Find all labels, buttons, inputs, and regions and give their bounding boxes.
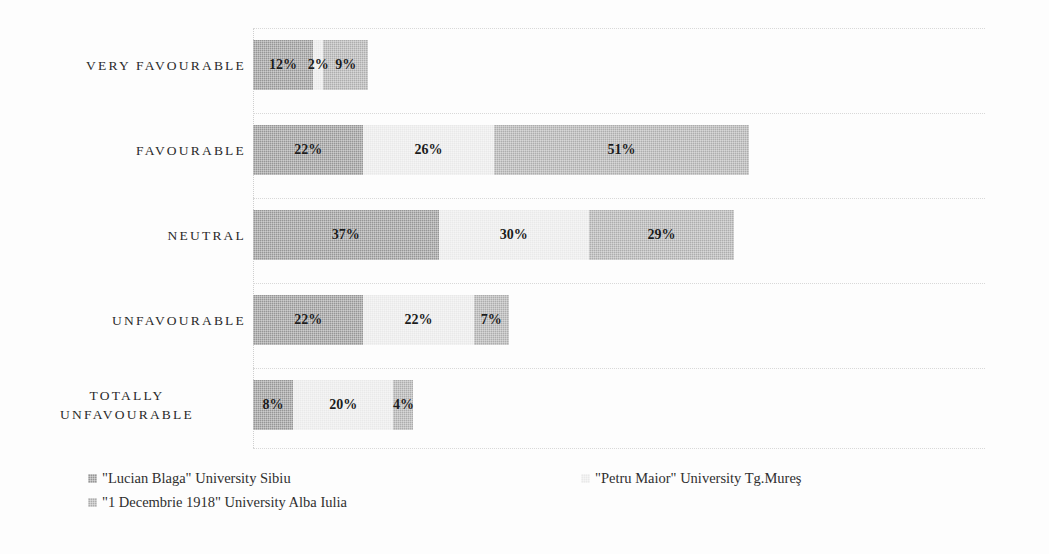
gridline [253, 28, 985, 29]
bar-segment[interactable]: 51% [494, 125, 750, 175]
bar-row: 8%20%4% [253, 380, 413, 430]
category-label: NEUTRAL [8, 226, 246, 245]
bar-segment[interactable]: 20% [293, 380, 393, 430]
category-label-line: UNFAVOURABLE [8, 311, 246, 330]
category-label: UNFAVOURABLE [8, 311, 246, 330]
legend-swatch-icon [581, 474, 590, 483]
legend-item-petru-maior[interactable]: "Petru Maior" University Tg.Mureş [581, 470, 802, 487]
bar-value-label: 4% [393, 397, 414, 413]
gridline [253, 198, 985, 199]
bar-segment[interactable]: 26% [363, 125, 493, 175]
bar-segment[interactable]: 37% [253, 210, 439, 260]
bar-segment[interactable]: 9% [323, 40, 368, 90]
bar-row: 37%30%29% [253, 210, 734, 260]
bar-segment[interactable]: 4% [393, 380, 413, 430]
category-label: VERY FAVOURABLE [8, 56, 246, 75]
bar-value-label: 12% [269, 57, 297, 73]
legend-swatch-icon [88, 498, 97, 507]
legend-label: "Petru Maior" University Tg.Mureş [595, 470, 802, 487]
plot-area: 12%2%9%22%26%51%37%30%29%22%22%7%8%20%4% [253, 28, 985, 448]
category-label-line: UNFAVOURABLE [8, 405, 246, 424]
bar-value-label: 7% [481, 312, 502, 328]
bar-segment[interactable]: 22% [253, 295, 363, 345]
bar-segment[interactable]: 7% [474, 295, 509, 345]
bar-segment[interactable]: 2% [313, 40, 323, 90]
category-label: TOTALLYUNFAVOURABLE [8, 386, 248, 424]
category-label-line: NEUTRAL [8, 226, 246, 245]
bar-value-label: 29% [648, 227, 676, 243]
legend-label: "Lucian Blaga" University Sibiu [102, 470, 291, 487]
legend-row: "Lucian Blaga" University Sibiu "Petru M… [88, 470, 988, 494]
gridline [253, 448, 985, 449]
bar-segment[interactable]: 30% [439, 210, 589, 260]
chart-page: 12%2%9%22%26%51%37%30%29%22%22%7%8%20%4%… [0, 0, 1049, 554]
bar-value-label: 22% [294, 142, 322, 158]
bar-value-label: 22% [404, 312, 432, 328]
category-label-line: VERY FAVOURABLE [8, 56, 246, 75]
bar-segment[interactable]: 8% [253, 380, 293, 430]
legend-row: "1 Decembrie 1918" University Alba Iulia [88, 494, 988, 518]
legend-item-alba-iulia[interactable]: "1 Decembrie 1918" University Alba Iulia [88, 494, 347, 511]
legend-label: "1 Decembrie 1918" University Alba Iulia [102, 494, 347, 511]
bar-segment[interactable]: 22% [253, 125, 363, 175]
bar-value-label: 26% [414, 142, 442, 158]
bar-value-label: 51% [607, 142, 635, 158]
bar-value-label: 8% [263, 397, 284, 413]
bar-segment[interactable]: 29% [589, 210, 734, 260]
bar-segment[interactable]: 22% [363, 295, 473, 345]
bar-value-label: 20% [329, 397, 357, 413]
category-label-line: FAVOURABLE [8, 141, 246, 160]
category-label: FAVOURABLE [8, 141, 246, 160]
bar-row: 22%22%7% [253, 295, 509, 345]
bar-segment[interactable]: 12% [253, 40, 313, 90]
bar-value-label: 37% [332, 227, 360, 243]
chart-legend: "Lucian Blaga" University Sibiu "Petru M… [88, 470, 988, 518]
bar-row: 22%26%51% [253, 125, 749, 175]
bar-value-label: 22% [294, 312, 322, 328]
gridline [253, 283, 985, 284]
gridline [253, 113, 985, 114]
bar-value-label: 2% [308, 57, 329, 73]
legend-swatch-icon [88, 474, 97, 483]
bar-value-label: 30% [500, 227, 528, 243]
category-label-line: TOTALLY [8, 386, 246, 405]
gridline [253, 368, 985, 369]
bar-value-label: 9% [335, 57, 356, 73]
legend-item-lucian-blaga[interactable]: "Lucian Blaga" University Sibiu [88, 470, 291, 487]
bar-row: 12%2%9% [253, 40, 368, 90]
